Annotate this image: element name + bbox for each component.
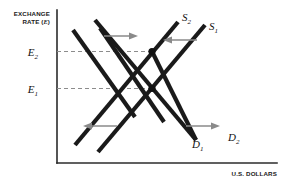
curve-label-d1-symbol: D (191, 138, 200, 150)
demand-curves (73, 20, 196, 140)
demand-curve-d1 (73, 30, 135, 117)
y-tick-subscript-1: 1 (35, 90, 39, 98)
shift-arrows (83, 32, 220, 129)
exchange-rate-diagram: EXCHANGE RATE (E) E2 E1 S2 S1 D1 (0, 0, 294, 184)
y-axis-label-line1: EXCHANGE (14, 10, 50, 17)
curve-label-s2-subscript: 2 (188, 18, 192, 26)
arrow-head-right-bottom (211, 122, 220, 129)
curve-label-s1-subscript: 1 (215, 27, 219, 35)
y-axis-label: EXCHANGE RATE (E) (14, 10, 50, 25)
arrow-head-right-top (129, 32, 138, 39)
curve-label-d1-subscript: 1 (200, 145, 204, 153)
y-axis-label-paren-close: ) (48, 18, 50, 25)
equilibrium-point-2 (148, 48, 155, 55)
x-axis-label: U.S. DOLLARS (232, 170, 277, 177)
y-tick-labels: E2 E1 (27, 46, 39, 98)
equilibrium-point-1 (148, 85, 155, 92)
curve-label-s2: S2 (182, 11, 192, 26)
curve-label-d2-symbol: D (227, 131, 236, 143)
curve-label-d1: D1 (191, 138, 203, 153)
y-tick-label-e2: E2 (27, 46, 39, 61)
curve-label-d2-subscript: 2 (236, 138, 240, 146)
y-axis-label-line2: RATE (E) (22, 18, 50, 25)
curve-label-s1: S1 (209, 20, 218, 35)
diagram-canvas: EXCHANGE RATE (E) E2 E1 S2 S1 D1 (0, 0, 294, 184)
curve-label-d2: D2 (227, 131, 240, 146)
y-tick-label-e1: E1 (27, 83, 38, 98)
y-tick-subscript-2: 2 (35, 53, 39, 61)
y-axis-label-rate-text: RATE ( (22, 18, 44, 25)
